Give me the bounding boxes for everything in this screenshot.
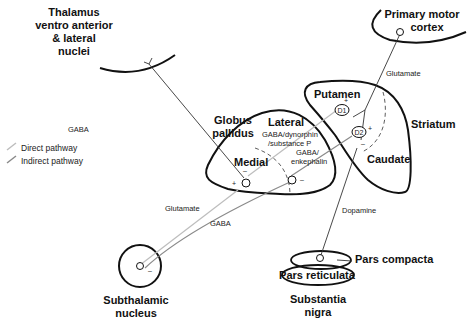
d1-synapse-branch bbox=[353, 110, 365, 117]
motor-cortex-label: Primary motor cortex bbox=[384, 8, 460, 33]
d2-minus-sign: – bbox=[361, 140, 365, 147]
stn-minus-sign: – bbox=[148, 267, 152, 274]
legend: Direct pathway Indirect pathway bbox=[7, 143, 84, 166]
gaba-thalamus-label: GABA bbox=[68, 125, 89, 134]
svg-text:GABA/dynorphin: GABA/dynorphin bbox=[262, 130, 318, 139]
svg-text:Primary motor: Primary motor bbox=[384, 8, 460, 20]
basal-ganglia-diagram: D1 D2 + + – – + – – Thalamus ventro ante… bbox=[0, 0, 469, 325]
gaba-dynorphin-label: GABA/dynorphin /substance P bbox=[262, 130, 318, 148]
svg-text:Substantia: Substantia bbox=[290, 293, 347, 305]
stn-neuron-icon bbox=[137, 263, 144, 270]
subthalamic-label: Subthalamic nucleus bbox=[103, 294, 168, 319]
svg-text:nucleus: nucleus bbox=[115, 307, 157, 319]
svg-text:pallidus: pallidus bbox=[212, 127, 254, 139]
d2-label: D2 bbox=[355, 129, 364, 136]
svg-text:& lateral: & lateral bbox=[52, 32, 95, 44]
thalamus-synapse-icon bbox=[144, 58, 152, 64]
d2-plus-sign: + bbox=[368, 125, 372, 132]
svg-text:nuclei: nuclei bbox=[58, 45, 90, 57]
glutamate-stn-label: Glutamate bbox=[165, 204, 200, 213]
svg-text:nigra: nigra bbox=[305, 306, 333, 318]
striatum-label: Striatum bbox=[411, 118, 456, 130]
globus-pallidus-label: Globus pallidus bbox=[212, 114, 254, 139]
d1-label: D1 bbox=[338, 107, 347, 114]
svg-text:/substance P: /substance P bbox=[268, 139, 311, 148]
legend-direct-label: Direct pathway bbox=[21, 143, 78, 153]
gp-medial-label: Medial bbox=[234, 156, 268, 168]
legend-indirect-swatch bbox=[7, 156, 16, 163]
svg-text:cortex: cortex bbox=[410, 21, 444, 33]
cortex-neuron-icon bbox=[397, 29, 404, 36]
svg-text:GABA/: GABA/ bbox=[296, 148, 320, 157]
snc-neuron-icon bbox=[317, 255, 324, 262]
caudate-label: Caudate bbox=[367, 153, 410, 165]
svg-text:Subthalamic: Subthalamic bbox=[103, 294, 168, 306]
glutamate-cortex-label: Glutamate bbox=[386, 69, 421, 78]
svg-text:enkephalin: enkephalin bbox=[291, 157, 327, 166]
gp-lateral-label: Lateral bbox=[268, 116, 304, 128]
substantia-nigra-label: Substantia nigra bbox=[290, 293, 347, 318]
thalamus-label: Thalamus ventro anterior & lateral nucle… bbox=[35, 6, 113, 57]
putamen-label: Putamen bbox=[314, 88, 361, 100]
medial-plus-sign: + bbox=[232, 180, 236, 187]
gp-lateral-neuron-icon bbox=[288, 176, 296, 184]
pars-reticulata-label: Pars reticulata bbox=[279, 269, 356, 281]
dopamine-label: Dopamine bbox=[342, 206, 376, 215]
svg-text:Thalamus: Thalamus bbox=[48, 6, 99, 18]
pars-compacta-pointer bbox=[337, 260, 352, 261]
gaba-enkephalin-label: GABA/ enkephalin bbox=[291, 148, 327, 166]
striatum-divider-dashed bbox=[362, 92, 385, 152]
lateral-minus-sign: – bbox=[300, 176, 304, 183]
thalamus-outline bbox=[100, 55, 175, 72]
svg-text:ventro anterior: ventro anterior bbox=[35, 19, 113, 31]
svg-text:Globus: Globus bbox=[214, 114, 252, 126]
medial-minus-sign: – bbox=[243, 167, 247, 174]
gp-medial-neuron-icon bbox=[242, 179, 250, 187]
legend-direct-swatch bbox=[7, 143, 16, 150]
gaba-stn-label: GABA bbox=[210, 219, 231, 228]
pars-compacta-label: Pars compacta bbox=[355, 253, 434, 265]
legend-indirect-label: Indirect pathway bbox=[21, 156, 84, 166]
